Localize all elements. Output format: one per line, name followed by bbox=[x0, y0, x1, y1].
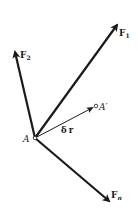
point-a-marker bbox=[33, 136, 37, 140]
force-f1-arrow bbox=[35, 25, 117, 138]
r-symbol: r bbox=[69, 125, 74, 135]
force-fn-label: Fn bbox=[111, 190, 122, 201]
delta-symbol: δ bbox=[61, 125, 67, 135]
point-a-prime-marker bbox=[94, 104, 98, 108]
f2-subscript: 2 bbox=[26, 54, 30, 61]
point-a-prime-label: A′ bbox=[98, 102, 108, 112]
force-fn-arrow bbox=[35, 138, 109, 201]
f1-subscript: 1 bbox=[125, 32, 129, 39]
force-diagram: A A′ δr F1 F2 Fn bbox=[0, 0, 138, 212]
force-f1-label: F1 bbox=[119, 28, 130, 39]
displacement-label: δr bbox=[61, 125, 74, 135]
force-f2-label: F2 bbox=[20, 50, 31, 61]
force-f2-arrow bbox=[15, 52, 35, 138]
fn-subscript: n bbox=[117, 194, 121, 201]
point-a-label: A bbox=[22, 134, 30, 144]
